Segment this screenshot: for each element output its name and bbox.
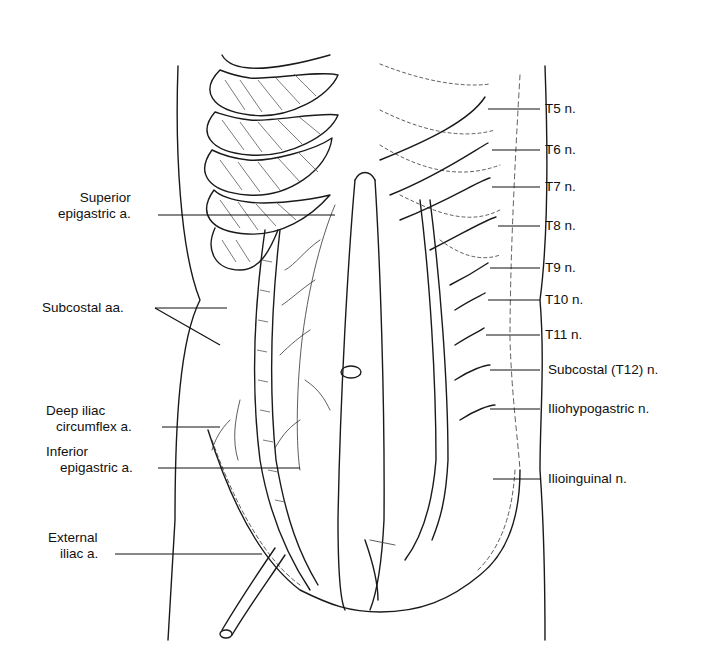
anatomy-figure: Superior epigastric a. Subcostal aa. Dee… <box>0 0 714 658</box>
label-line: External <box>48 530 98 546</box>
label-line: iliac a. <box>48 546 98 562</box>
label-subcostal-arteries: Subcostal aa. <box>42 300 124 316</box>
external-iliac-artery-upper <box>222 548 275 630</box>
intercostal-nerves <box>380 97 496 420</box>
label-line: epigastric a. <box>46 460 133 476</box>
label-line: Subcostal aa. <box>42 300 124 316</box>
label-deep-iliac-circumflex-artery: Deep iliac circumflex a. <box>46 403 132 435</box>
lower-flap-outline <box>208 430 520 612</box>
right-ribs-faint <box>380 64 500 258</box>
abdominal-wall-illustration <box>0 0 714 658</box>
label-t6-nerve: T6 n. <box>545 142 576 158</box>
left-leader-lines <box>115 215 335 554</box>
label-t11-nerve: T11 n. <box>545 327 582 343</box>
label-t8-nerve: T8 n. <box>545 218 576 234</box>
external-iliac-artery-lower <box>232 555 285 635</box>
label-line: epigastric a. <box>42 206 131 222</box>
left-rectus-inner-edge <box>272 230 318 585</box>
xiphoid <box>355 173 375 181</box>
label-iliohypogastric-nerve: Iliohypogastric n. <box>548 401 649 417</box>
right-leader-lines <box>486 109 540 479</box>
label-superior-epigastric-artery: Superior epigastric a. <box>42 190 131 222</box>
label-subcostal-t12-nerve: Subcostal (T12) n. <box>548 362 658 378</box>
label-external-iliac-artery: External iliac a. <box>48 530 98 562</box>
right-rectus-inner-edge <box>405 200 436 560</box>
label-t5-nerve: T5 n. <box>545 101 576 117</box>
left-ribs <box>205 55 338 270</box>
linea-alba-left <box>338 180 355 610</box>
label-line: circumflex a. <box>46 419 132 435</box>
label-ilioinguinal-nerve: Ilioinguinal n. <box>548 471 627 487</box>
left-rectus-lateral-edge <box>255 230 310 590</box>
label-t10-nerve: T10 n. <box>545 292 583 308</box>
umbilicus <box>341 366 361 378</box>
label-t7-nerve: T7 n. <box>545 179 576 195</box>
label-line: Superior <box>42 190 131 206</box>
label-t9-nerve: T9 n. <box>545 260 576 276</box>
linea-alba-right <box>370 180 384 610</box>
label-line: Inferior <box>46 444 133 460</box>
label-inferior-epigastric-artery: Inferior epigastric a. <box>46 444 133 476</box>
label-line: Deep iliac <box>46 403 132 419</box>
